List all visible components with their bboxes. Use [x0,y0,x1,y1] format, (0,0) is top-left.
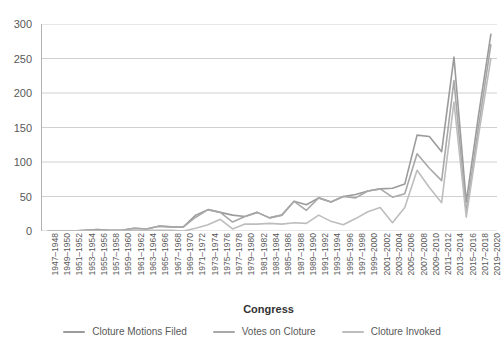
series-line-0 [48,34,491,231]
x-tick-label-10: 1967–1968 [174,233,183,276]
x-tick-label-9: 1965–1966 [161,233,170,276]
x-tick-label-4: 1955–1956 [100,233,109,276]
x-tick-label-27: 2001–2002 [383,233,392,276]
x-tick-label-13: 1973–1974 [211,233,220,276]
y-axis: 050100150200250300 [0,0,32,354]
legend-label-0: Cloture Motions Filed [92,326,186,337]
x-tick-label-21: 1989–1990 [309,233,318,276]
series-line-2 [48,59,491,232]
x-tick-label-6: 1959–1960 [124,233,133,276]
legend-item-1[interactable]: Votes on Cloture [213,326,316,337]
x-tick-label-36: 2019–2020 [493,233,502,276]
x-tick-label-33: 2013–2014 [456,233,465,276]
line-chart: 050100150200250300 1947–19481949–1950195… [0,0,504,354]
x-tick-label-3: 1953–1954 [88,233,97,276]
x-tick-label-20: 1987–1988 [297,233,306,276]
legend-item-2[interactable]: Cloture Invoked [342,326,441,337]
x-tick-label-16: 1979–1980 [247,233,256,276]
legend-label-2: Cloture Invoked [371,326,441,337]
y-tick-label-6: 300 [0,19,32,30]
y-tick-label-4: 200 [0,88,32,99]
x-axis: 1947–19481949–19501951–19521953–19541955… [41,233,496,303]
x-tick-label-22: 1991–1992 [321,233,330,276]
x-tick-label-31: 2009–2010 [432,233,441,276]
x-tick-label-8: 1963–1964 [149,233,158,276]
legend-item-0[interactable]: Cloture Motions Filed [63,326,186,337]
x-tick-label-1: 1949–1950 [63,233,72,276]
x-tick-label-15: 1977–1978 [235,233,244,276]
legend-swatch-icon-0 [63,331,85,333]
legend-swatch-icon-1 [213,331,235,333]
x-tick-label-32: 2011–2012 [444,233,453,275]
x-tick-label-30: 2007–2008 [420,233,429,276]
series-line-1 [48,45,491,231]
y-tick-label-3: 150 [0,122,32,133]
x-tick-label-35: 2017–2018 [481,233,490,276]
x-tick-label-12: 1971–1972 [198,233,207,276]
y-tick-label-5: 250 [0,53,32,64]
x-tick-label-19: 1985–1986 [284,233,293,276]
x-tick-label-28: 2003–2004 [395,233,404,276]
x-tick-label-23: 1993–1994 [333,233,342,276]
x-tick-label-29: 2005–2006 [407,233,416,276]
x-tick-label-0: 1947–1948 [51,233,60,276]
legend-label-1: Votes on Cloture [242,326,316,337]
x-tick-label-24: 1995–1996 [346,233,355,276]
plot-area [41,24,496,231]
chart-legend: Cloture Motions FiledVotes on ClotureClo… [0,326,504,337]
y-tick-label-2: 100 [0,157,32,168]
x-tick-label-17: 1981–1982 [260,233,269,276]
x-tick-label-2: 1951–1952 [75,233,84,276]
x-tick-label-18: 1983–1984 [272,233,281,276]
x-tick-label-25: 1997–1998 [358,233,367,276]
x-tick-label-14: 1975–1976 [223,233,232,276]
y-tick-label-0: 0 [0,226,32,237]
x-tick-label-26: 1999–2000 [370,233,379,276]
y-tick-label-1: 50 [0,191,32,202]
x-tick-label-7: 1961–1962 [137,233,146,276]
x-axis-title: Congress [41,303,496,315]
legend-swatch-icon-2 [342,331,364,333]
x-tick-label-11: 1969–1970 [186,233,195,276]
plot-svg [42,24,497,231]
x-tick-label-34: 2015–2016 [469,233,478,276]
x-tick-label-5: 1957–1958 [112,233,121,276]
